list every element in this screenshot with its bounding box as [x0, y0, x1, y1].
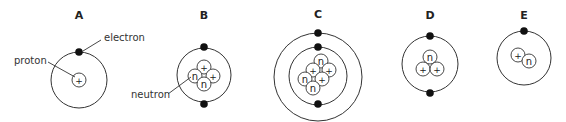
atom-label: E: [520, 9, 528, 22]
atomic-structure-diagram: A+B+n+nCn++n+nDn++E+nelectronprotonneutr…: [0, 0, 566, 122]
svg-text:n: n: [310, 83, 316, 94]
electron-shell: [177, 48, 231, 102]
svg-text:+: +: [318, 75, 326, 85]
atom-e: E+n: [497, 9, 551, 85]
electron: [520, 27, 528, 35]
svg-text:+: +: [75, 76, 83, 86]
atom-label: C: [314, 8, 322, 21]
electron: [314, 29, 322, 37]
proton: +: [72, 73, 86, 87]
svg-text:n: n: [427, 52, 433, 63]
callout-electron: electron: [83, 32, 145, 51]
atom-c: Cn++n+n: [274, 8, 362, 121]
electron: [200, 100, 208, 108]
electron: [314, 100, 322, 108]
svg-text:+: +: [200, 63, 208, 73]
callout-neutron: neutron: [131, 77, 191, 100]
svg-text:+: +: [209, 72, 217, 82]
callout-label: neutron: [131, 89, 170, 100]
svg-text:+: +: [514, 51, 522, 61]
atom-label: D: [425, 9, 434, 22]
atom-b: B+n+n: [177, 9, 231, 108]
atom-d: Dn++: [402, 9, 458, 97]
callout-label: electron: [104, 32, 145, 43]
atom-a: A+: [51, 9, 107, 108]
electron: [426, 32, 434, 40]
svg-text:+: +: [419, 65, 427, 75]
electron: [200, 43, 208, 51]
proton: +: [430, 62, 444, 76]
svg-text:n: n: [201, 79, 207, 90]
atom-label: A: [75, 9, 84, 22]
neutron: n: [197, 77, 211, 91]
electron: [426, 89, 434, 97]
proton: +: [416, 62, 430, 76]
svg-text:+: +: [433, 65, 441, 75]
neutron: n: [306, 81, 320, 95]
electron: [75, 48, 83, 56]
callout-proton: proton: [14, 55, 75, 77]
atom-label: B: [200, 9, 208, 22]
svg-text:n: n: [192, 71, 198, 82]
svg-text:n: n: [526, 56, 532, 67]
callout-label: proton: [14, 55, 47, 66]
electron: [314, 43, 322, 51]
neutron: n: [522, 54, 536, 68]
